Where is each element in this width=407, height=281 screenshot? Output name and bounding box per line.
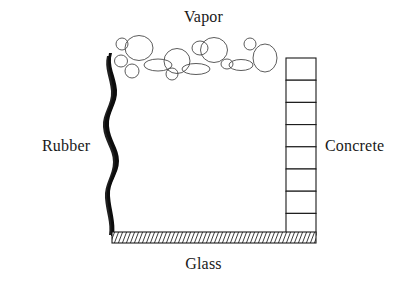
- concrete-block: [286, 125, 316, 147]
- label-glass: Glass: [0, 255, 407, 273]
- vapor-bubble-cluster: [115, 36, 278, 81]
- label-concrete: Concrete: [325, 137, 384, 155]
- concrete-block-column: [286, 58, 316, 235]
- vapor-bubble: [253, 44, 277, 72]
- concrete-block: [286, 80, 316, 102]
- vapor-bubble: [125, 36, 153, 61]
- vapor-bubble: [192, 41, 208, 55]
- label-vapor: Vapor: [0, 8, 407, 26]
- concrete-block: [286, 58, 316, 80]
- label-rubber: Rubber: [42, 137, 90, 155]
- vapor-barrier-diagram: Vapor Rubber Concrete Glass: [0, 0, 407, 281]
- vapor-bubble: [115, 55, 128, 67]
- rubber-membrane: [103, 53, 119, 236]
- vapor-bubble: [166, 68, 178, 80]
- vapor-bubble: [244, 38, 256, 50]
- vapor-bubble: [201, 38, 228, 63]
- concrete-block: [286, 169, 316, 191]
- vapor-bubble: [125, 64, 139, 78]
- vapor-bubble: [221, 59, 233, 69]
- concrete-block: [286, 147, 316, 169]
- glass-slab: [110, 231, 319, 244]
- vapor-bubble: [182, 64, 210, 75]
- concrete-block: [286, 102, 316, 124]
- vapor-bubble: [116, 38, 128, 50]
- concrete-block: [286, 191, 316, 213]
